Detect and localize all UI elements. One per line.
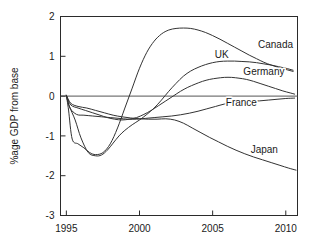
- y-tick-label: 2: [49, 11, 55, 22]
- series-label-canada: Canada: [258, 39, 293, 50]
- series-label-germany: Germany: [243, 66, 284, 77]
- series-line-japan: [66, 95, 296, 170]
- chart-canvas: 210-1-2-3 1995200020052010 CanadaCanadaU…: [0, 0, 316, 249]
- y-tick-label: -2: [46, 170, 55, 181]
- x-axis-ticks: 1995200020052010: [55, 211, 297, 234]
- series-line-germany: [66, 77, 294, 120]
- gdp-line-chart: 210-1-2-3 1995200020052010 CanadaCanadaU…: [0, 0, 316, 249]
- y-axis-title-text: %age GDP from base: [9, 67, 20, 165]
- y-axis-title: %age GDP from base: [9, 67, 20, 165]
- x-tick-label: 2005: [202, 223, 225, 234]
- series-label-uk: UK: [215, 49, 229, 60]
- series-label-japan: Japan: [251, 144, 278, 155]
- series-labels: CanadaCanadaUKUKGermanyGermanyFranceFran…: [215, 39, 294, 154]
- y-tick-label: 1: [49, 51, 55, 62]
- x-tick-label: 2000: [128, 223, 151, 234]
- y-tick-label: -3: [46, 210, 55, 221]
- y-tick-label: -1: [46, 131, 55, 142]
- y-tick-label: 0: [49, 91, 55, 102]
- x-tick-label: 1995: [55, 223, 78, 234]
- y-axis-ticks: 210-1-2-3: [46, 11, 66, 221]
- series-label-france: France: [226, 97, 258, 108]
- x-tick-label: 2010: [275, 223, 298, 234]
